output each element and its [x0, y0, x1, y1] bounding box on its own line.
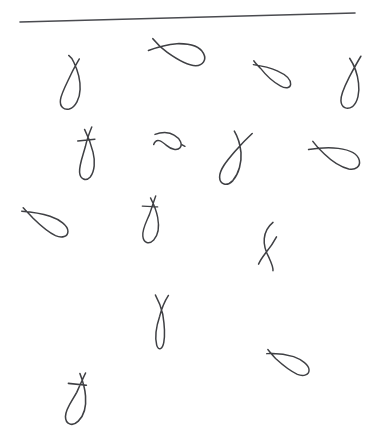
ink-stroke-vertical-loop-hooked-top[interactable]	[59, 55, 84, 111]
stroke-path	[75, 126, 97, 180]
ink-stroke-vertical-loop-cross-bar-2[interactable]	[136, 194, 164, 244]
stroke-collection	[21, 21, 362, 427]
stroke-path	[21, 201, 69, 243]
ink-stroke-horizontal-flat-loop[interactable]	[153, 131, 185, 151]
stroke-path	[218, 128, 252, 187]
stroke-path	[266, 342, 310, 382]
ink-stroke-bottom-loop-cross-bar[interactable]	[58, 369, 95, 427]
horizontal-rule	[20, 13, 355, 22]
ink-surface	[0, 0, 375, 428]
ink-stroke-low-flat-loop-crossed[interactable]	[21, 201, 69, 243]
stroke-path	[136, 194, 164, 244]
ink-stroke-vertical-loop-cross-bar[interactable]	[75, 126, 97, 180]
stroke-path	[258, 221, 278, 270]
stroke-path	[154, 295, 169, 349]
stroke-path	[145, 21, 208, 83]
ink-stroke-diagonal-loop-crossed-tail[interactable]	[145, 21, 208, 83]
ink-stroke-flat-loop-crossed-tail[interactable]	[253, 56, 291, 92]
stroke-path	[253, 56, 291, 92]
ink-stroke-flat-loop-crossed-tail-3[interactable]	[266, 342, 310, 382]
stroke-path	[306, 128, 361, 182]
horizontal-rule	[20, 13, 355, 22]
stroke-path	[153, 131, 185, 151]
ink-canvas[interactable]	[0, 0, 375, 428]
ink-stroke-vertical-loop-rising-tail[interactable]	[340, 55, 362, 109]
ink-stroke-narrow-loop-crossed-tail[interactable]	[258, 221, 278, 270]
ink-stroke-slanted-loop-crossed-tail[interactable]	[218, 128, 252, 187]
stroke-path	[59, 55, 84, 111]
stroke-path	[340, 55, 362, 109]
ink-stroke-diagonal-loop-crossed-tail-2[interactable]	[306, 128, 361, 182]
stroke-path	[58, 369, 95, 427]
ink-stroke-tall-narrow-loop-crossed-top[interactable]	[154, 295, 169, 349]
